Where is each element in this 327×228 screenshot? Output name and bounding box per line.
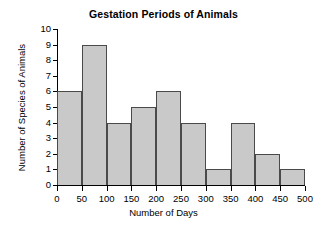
y-axis-tick-label: 10	[31, 23, 51, 34]
plot-area: 012345678910 050100150200250300350400450…	[57, 29, 305, 185]
y-axis-title: Number of Species of Animals	[16, 23, 27, 193]
histogram-bar	[82, 45, 107, 185]
histogram-bar	[255, 154, 280, 185]
histogram-bar	[181, 123, 206, 185]
y-axis-tick	[53, 29, 57, 30]
x-axis-tick	[107, 186, 108, 191]
y-axis-tick-label: 4	[31, 117, 51, 128]
y-axis-tick-label: 9	[31, 39, 51, 50]
x-axis-tick	[305, 186, 306, 191]
y-axis-tick-label: 2	[31, 148, 51, 159]
y-axis-tick-label: 6	[31, 85, 51, 96]
histogram-bar	[280, 169, 305, 185]
x-axis-tick-label: 500	[290, 193, 320, 204]
x-axis-tick	[156, 186, 157, 191]
x-axis-tick	[181, 186, 182, 191]
y-axis-tick-label: 0	[31, 179, 51, 190]
histogram-bar	[107, 123, 132, 185]
x-axis-tick	[231, 186, 232, 191]
x-axis-tick	[280, 186, 281, 191]
y-axis-tick-label: 8	[31, 54, 51, 65]
chart-title: Gestation Periods of Animals	[0, 8, 327, 20]
histogram-bar	[206, 169, 231, 185]
x-axis-tick	[82, 186, 83, 191]
x-axis-title: Number of Days	[0, 207, 327, 218]
histogram-bar	[231, 123, 256, 185]
x-axis-tick	[255, 186, 256, 191]
y-axis-tick	[53, 60, 57, 61]
y-axis-tick	[53, 45, 57, 46]
histogram-bar	[57, 91, 82, 185]
y-axis-tick-label: 5	[31, 101, 51, 112]
y-axis-tick	[53, 76, 57, 77]
histogram-bar	[131, 107, 156, 185]
histogram-bar	[156, 91, 181, 185]
x-axis-tick	[131, 186, 132, 191]
y-axis-tick-label: 7	[31, 70, 51, 81]
y-axis-tick-label: 3	[31, 132, 51, 143]
x-axis-tick	[206, 186, 207, 191]
x-axis-tick	[57, 186, 58, 191]
y-axis-tick-label: 1	[31, 163, 51, 174]
histogram-figure: Gestation Periods of Animals Number of S…	[0, 0, 327, 228]
